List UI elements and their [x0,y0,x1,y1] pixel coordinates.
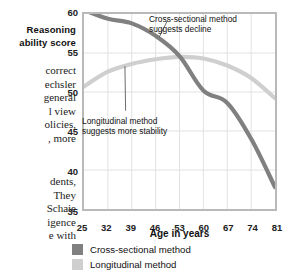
legend-swatch [72,244,83,255]
y-axis-tick-label: 40 [67,166,78,177]
y-axis-tick-label: 45 [67,126,78,137]
annotation-cross-sectional: Cross-sectional method suggests decline [149,14,237,34]
y-axis-tick-label: 35 [67,206,78,217]
annotation-leader-lines [84,14,275,209]
x-axis-title: Age in years [82,228,277,239]
legend-item: Cross-sectional method [72,242,282,257]
legend-item: Longitudinal method [72,257,282,271]
plot-area [82,12,277,211]
legend-swatch [72,259,83,270]
leader-line-longitudinal [125,66,126,110]
chart-legend: Cross-sectional methodLongitudinal metho… [72,242,282,271]
annotation-longitudinal: Longitudinal method suggests more stabil… [82,116,167,136]
y-axis-tick-label: 50 [67,86,78,97]
legend-label: Cross-sectional method [90,244,191,255]
reasoning-ability-chart: 354045505560253239465360677481 Cross-sec… [56,6,287,271]
legend-label: Longitudinal method [90,259,176,270]
y-axis-tick-label: 55 [67,46,78,57]
y-axis-tick-label: 60 [67,7,78,18]
